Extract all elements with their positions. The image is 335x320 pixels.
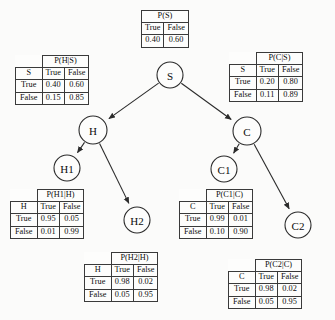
cpt-col-header-false: False [277,272,302,284]
cpt-header-row: H True False [85,265,158,277]
cpt-title-row: P(H1|H) [11,190,84,202]
cpt-cell: 0.98 [255,284,277,296]
cpt-col-header-false: False [133,265,158,277]
cpt-header-row: C True False [229,272,302,284]
cpt-table-p-c2-given-c: P(C2|C) C True False True 0.98 0.02 Fals… [228,259,302,309]
edge-c-to-c1 [234,144,240,153]
cpt-title: P(H|S) [42,56,89,68]
cpt-col-header-false: False [278,65,303,77]
node-label-s: S [167,70,173,82]
cpt-title-row: P(S) [142,11,189,23]
cpt-table-p-c-given-s: P(C|S) S True False True 0.20 0.80 False… [229,52,303,102]
cpt-data-row: True 0.95 0.05 [11,214,84,226]
cpt-data-row: False 0.11 0.89 [230,89,303,101]
cpt-parent-header: C [180,202,207,214]
cpt-title-row: P(H2|H) [85,253,158,265]
cpt-corner-spacer [11,190,38,202]
edge-h-to-h1 [77,142,84,152]
bayesian-network-diagram: SHCH1C1H2C2 P(S) True False 0.40 0.60 P(… [0,0,335,320]
cpt-parent-header: H [11,202,38,214]
cpt-parent-header: S [16,68,43,80]
node-label-c: C [243,126,250,138]
cpt-cell: 0.40 [42,80,64,92]
cpt-col-header-false: False [59,202,84,214]
cpt-header-row: True False [142,23,189,35]
cpt-cell: 0.05 [59,214,84,226]
cpt-cell: 0.95 [133,289,158,301]
cpt-title-row: P(C1|C) [180,190,253,202]
cpt-parent-header: S [230,65,257,77]
cpt-cell: 0.85 [64,92,89,104]
cpt-corner-spacer [230,53,257,65]
node-label-h: H [89,125,97,137]
cpt-title-row: P(C2|C) [229,260,302,272]
cpt-row-header: True [16,80,43,92]
cpt-cell: 0.20 [256,77,278,89]
cpt-row-header: True [230,77,257,89]
cpt-cell: 0.89 [278,89,303,101]
edge-s-to-c [181,83,231,119]
node-c[interactable]: C [233,117,261,145]
cpt-cell: 0.60 [64,80,89,92]
cpt-cell: 0.60 [164,35,189,47]
cpt-col-header-true: True [37,202,59,214]
cpt-col-header-true: True [142,23,164,35]
cpt-title: P(C|S) [256,53,303,65]
cpt-data-row: True 0.99 0.01 [180,214,253,226]
node-label-h1: H1 [60,163,73,175]
cpt-cell: 0.40 [142,35,164,47]
cpt-cell: 0.01 [228,214,253,226]
cpt-row-header: False [16,92,43,104]
cpt-data-row: False 0.05 0.95 [229,296,302,308]
cpt-col-header-true: True [42,68,64,80]
cpt-row-header: True [11,214,38,226]
node-c2[interactable]: C2 [285,212,311,238]
cpt-cell: 0.02 [277,284,302,296]
cpt-row-header: True [180,214,207,226]
cpt-cell: 0.05 [111,289,133,301]
cpt-data-row: True 0.20 0.80 [230,77,303,89]
cpt-title: P(C2|C) [255,260,302,272]
edge-s-to-h [109,83,159,119]
node-h2[interactable]: H2 [124,207,150,233]
cpt-table-p-h1-given-h: P(H1|H) H True False True 0.95 0.05 Fals… [10,189,84,239]
node-h1[interactable]: H1 [54,155,80,181]
cpt-row-header: False [11,226,38,238]
cpt-cell: 0.99 [206,214,228,226]
cpt-row-header: True [229,284,256,296]
cpt-row-header: False [180,226,207,238]
cpt-title: P(H1|H) [37,190,84,202]
cpt-table-p-h-given-s: P(H|S) S True False True 0.40 0.60 False… [15,55,89,105]
cpt-header-row: S True False [16,68,89,80]
cpt-cell: 0.80 [278,77,303,89]
edge-h-to-h2 [100,143,129,203]
cpt-parent-header: C [229,272,256,284]
cpt-row-header: False [85,289,112,301]
cpt-col-header-false: False [64,68,89,80]
cpt-data-row: False 0.05 0.95 [85,289,158,301]
cpt-header-row: H True False [11,202,84,214]
cpt-data-row: True 0.40 0.60 [16,80,89,92]
cpt-table-p-c1-given-c: P(C1|C) C True False True 0.99 0.01 Fals… [179,189,253,239]
cpt-cell: 0.11 [256,89,278,101]
node-c1[interactable]: C1 [211,156,237,182]
node-label-c1: C1 [218,164,231,176]
cpt-corner-spacer [229,260,256,272]
node-label-c2: C2 [292,220,305,232]
node-label-h2: H2 [130,215,143,227]
node-h[interactable]: H [79,116,107,144]
cpt-corner-spacer [16,56,43,68]
cpt-col-header-true: True [111,265,133,277]
cpt-row-header: False [230,89,257,101]
cpt-cell: 0.90 [228,226,253,238]
cpt-cell: 0.01 [37,226,59,238]
cpt-title: P(H2|H) [111,253,158,265]
node-s[interactable]: S [157,62,183,88]
cpt-data-row: 0.40 0.60 [142,35,189,47]
cpt-corner-spacer [180,190,207,202]
cpt-data-row: False 0.10 0.90 [180,226,253,238]
cpt-col-header-true: True [206,202,228,214]
cpt-title-row: P(C|S) [230,53,303,65]
cpt-cell: 0.02 [133,277,158,289]
cpt-corner-spacer [85,253,112,265]
